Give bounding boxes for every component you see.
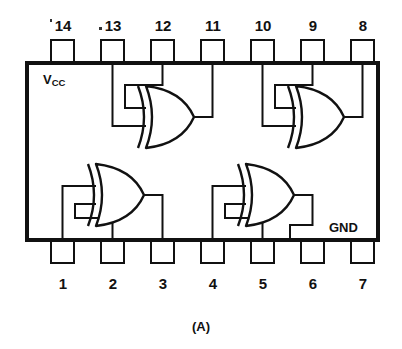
- pin-number-8: 8: [359, 17, 367, 34]
- pin-tab-9[interactable]: [301, 40, 324, 64]
- bottom-pin-numbers: 1 2 3 4 5 6 7: [59, 275, 367, 292]
- pin-tab-4[interactable]: [201, 239, 224, 263]
- bottom-pin-tabs: [51, 239, 374, 263]
- pin-tab-11[interactable]: [201, 40, 224, 64]
- pin-number-9: 9: [309, 17, 317, 34]
- pin-number-10: 10: [255, 17, 272, 34]
- pin-tab-1[interactable]: [51, 239, 74, 263]
- pin-tab-14[interactable]: [51, 40, 74, 64]
- pin-tab-10[interactable]: [251, 40, 274, 64]
- pin-number-5: 5: [259, 275, 267, 292]
- figure-caption: (A): [192, 319, 210, 334]
- pin-tab-3[interactable]: [151, 239, 174, 263]
- ic-pinout-figure: VCC GND 14 13 12 11 10 9 8 1 2 3 4 5 6 7: [0, 0, 402, 349]
- pin-tab-7[interactable]: [351, 239, 374, 263]
- pin-number-4: 4: [209, 275, 218, 292]
- top-pin-tabs: [51, 40, 374, 64]
- pin-number-3: 3: [159, 275, 167, 292]
- pin-tab-2[interactable]: [101, 239, 124, 263]
- scan-speck: [99, 27, 102, 30]
- gnd-label: GND: [329, 220, 358, 235]
- pin-tab-5[interactable]: [251, 239, 274, 263]
- pin-number-11: 11: [205, 17, 221, 34]
- top-pin-numbers: 14 13 12 11 10 9 8: [50, 17, 367, 34]
- pin-tab-13[interactable]: [101, 40, 124, 64]
- pin-number-6: 6: [309, 275, 317, 292]
- pin-number-12: 12: [155, 17, 172, 34]
- pin-tab-8[interactable]: [351, 40, 374, 64]
- pin-number-13: 13: [105, 17, 122, 34]
- scan-speck: [50, 19, 52, 22]
- vcc-label-text: V: [43, 72, 52, 87]
- pin-number-14: 14: [55, 17, 72, 34]
- pin-number-2: 2: [109, 275, 117, 292]
- ic-diagram-canvas: VCC GND 14 13 12 11 10 9 8 1 2 3 4 5 6 7: [0, 0, 402, 349]
- pin-number-1: 1: [59, 275, 67, 292]
- pin-tab-12[interactable]: [151, 40, 174, 64]
- pin-tab-6[interactable]: [301, 239, 324, 263]
- ic-body-outline: [27, 63, 378, 240]
- pin-number-7: 7: [359, 275, 367, 292]
- vcc-label-subscript: CC: [52, 77, 66, 88]
